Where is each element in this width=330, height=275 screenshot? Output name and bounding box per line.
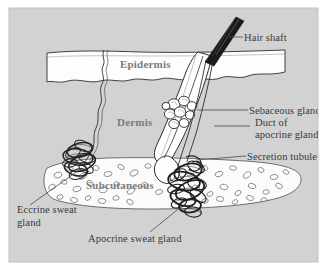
label-dermis: Dermis [117, 116, 153, 128]
callout-hair-shaft: Hair shaft [244, 32, 287, 43]
callout-duct-of: Duct of [255, 117, 288, 128]
label-subcutaneous: Subcutaneous [86, 179, 154, 191]
callout-eccrine-sweat: Eccrine sweat [17, 204, 77, 215]
callout-sebaceous-gland: Sebaceous gland [249, 105, 321, 116]
skin-anatomy-figure: Epidermis Dermis Subcutaneous Hair shaft… [0, 0, 330, 275]
callout-apocrine-gland: apocrine gland [255, 129, 319, 140]
label-epidermis: Epidermis [120, 58, 171, 70]
diagram-canvas: Epidermis Dermis Subcutaneous Hair shaft… [0, 0, 330, 275]
callout-secretion-tubule: Secretion tubule [247, 151, 317, 162]
callout-eccrine-gland-line2: gland [17, 217, 41, 228]
callout-apocrine-sweat-gland: Apocrine sweat gland [88, 233, 182, 244]
